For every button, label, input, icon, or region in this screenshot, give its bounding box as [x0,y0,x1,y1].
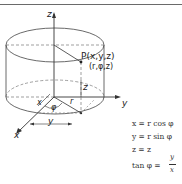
x-axis-label: x [14,131,19,140]
x-axis [18,97,54,132]
x-proj-label: x [37,99,42,107]
phi-label: φ [51,104,56,112]
z-arrow-icon [52,12,56,18]
equation-x: x = r cos φ [132,120,173,128]
equation-z: z = z [132,146,151,154]
point-label: P(x,y,z) [81,52,115,61]
y-arrow-icon [115,95,121,99]
r-label: r [70,98,73,106]
point-label-cylindrical: (r,φ,z) [89,63,113,71]
fraction-numerator: y [170,154,174,161]
y-proj-label: y [48,117,53,126]
cylinder-diagram [0,0,182,184]
y-axis-label: y [122,99,127,108]
equation-y: y = r sin φ [132,133,172,141]
equation-tan: tan φ = [132,162,161,170]
z-height-label: z [83,83,88,92]
point-p [80,61,83,64]
fraction-denominator: x [170,167,174,174]
bottom-ellipse-back [6,80,104,97]
fraction-bar [169,164,176,165]
z-axis-label: z [47,10,52,19]
